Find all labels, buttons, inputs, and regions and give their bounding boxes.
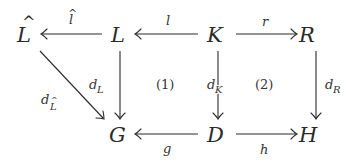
edge-label-r: r xyxy=(262,14,269,29)
arrow-l xyxy=(135,29,198,39)
arrow-r xyxy=(236,29,297,39)
edge-label-dr: d R xyxy=(325,77,341,95)
arrow-g xyxy=(135,129,198,139)
node-r: R xyxy=(298,23,315,47)
arrow-dr xyxy=(311,51,321,119)
edge-label-dl: d L xyxy=(89,77,104,95)
edge-label-lhat-hat: ^ xyxy=(68,7,77,20)
edge-label-g: g xyxy=(163,141,171,156)
node-h: H xyxy=(298,123,318,147)
arrow-dl xyxy=(115,51,125,119)
edge-label-dk: d K xyxy=(207,77,223,95)
node-lhat: L ^ xyxy=(16,13,35,47)
edge-label-h: h xyxy=(260,142,268,157)
arrow-h xyxy=(236,129,297,139)
svg-text:^: ^ xyxy=(51,95,58,104)
node-lhat-hat: ^ xyxy=(22,13,35,32)
commutative-diagram: L ^ L K R G D H l ^ l r d L d K xyxy=(0,0,363,163)
node-k: K xyxy=(206,23,224,47)
svg-text:L: L xyxy=(96,84,104,95)
edge-label-l: l xyxy=(166,13,170,28)
svg-text:R: R xyxy=(332,84,341,95)
region-label-1: (1) xyxy=(156,77,174,92)
node-g: G xyxy=(109,123,126,147)
edge-label-dlhat: d L ^ xyxy=(41,92,58,112)
node-d: D xyxy=(206,123,224,147)
region-label-2: (2) xyxy=(255,77,273,92)
arrow-lhat xyxy=(41,29,102,39)
svg-text:K: K xyxy=(214,84,223,95)
node-l: L xyxy=(110,23,125,47)
svg-text:d: d xyxy=(41,92,49,107)
